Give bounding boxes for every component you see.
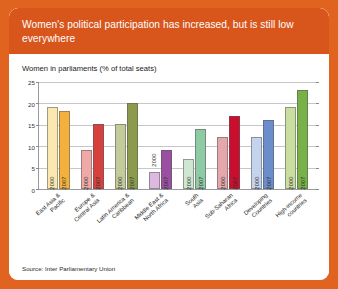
bar-year-label: 2007 [300, 176, 306, 189]
y-tick-label: 15 [28, 122, 35, 129]
bar: 2007 [195, 129, 206, 189]
bar-group: 20002007 [178, 82, 212, 189]
y-tickmark-right [316, 146, 319, 147]
bar: 2007 [161, 150, 172, 189]
chart-area: 0510152025 20002007200020072000200720002… [21, 78, 318, 280]
bar: 2007 [229, 116, 240, 189]
x-axis-label-text: DevelopingCountries [242, 192, 274, 222]
bar-year-label: 2000 [220, 176, 226, 189]
y-tick-label: 10 [28, 143, 35, 150]
x-axis-labels: East Asia &PacificEurope &Central AsiaLa… [38, 190, 318, 242]
page-title: Women's political participation has incr… [22, 18, 316, 45]
bar-group: 20002007 [212, 82, 246, 189]
info-card: Women's political participation has incr… [9, 8, 329, 280]
bar-year-label: 2007 [266, 176, 272, 189]
bar: 2007 [127, 103, 138, 189]
bar-group: 20002007 [143, 82, 177, 189]
bar-year-label: 2007 [198, 176, 204, 189]
bar: 2007 [59, 111, 70, 189]
bar-year-label: 2000 [83, 176, 89, 189]
bar: 2007 [263, 120, 274, 189]
bar-year-label: 2007 [95, 176, 101, 189]
y-tick-label: 20 [28, 100, 35, 107]
bar: 2000 [115, 124, 126, 189]
x-axis-label: East Asia &Pacific [40, 190, 75, 242]
bar-group: 20002007 [109, 82, 143, 189]
bar: 2000 [149, 172, 160, 189]
source-note: Source: Inter Parliamentary Union [22, 265, 115, 272]
bar-year-label: 2000 [117, 176, 123, 189]
bar-year-label: 2000 [151, 153, 157, 166]
bar-year-label: 2007 [61, 176, 67, 189]
y-tickmark-right [316, 103, 319, 104]
card-header: Women's political participation has incr… [9, 8, 329, 54]
plot-region: 2000200720002007200020072000200720002007… [38, 82, 316, 190]
bar-year-label: 2000 [49, 176, 55, 189]
y-axis: 0510152025 [21, 82, 38, 190]
bar-year-label: 2007 [232, 176, 238, 189]
chart-subtitle: Women in parliaments (% of total seats) [22, 63, 318, 74]
bar: 2007 [297, 90, 308, 189]
bar-year-label: 2007 [129, 176, 135, 189]
x-axis-label-text: East Asia &Pacific [35, 192, 67, 223]
bar: 2000 [251, 137, 262, 189]
card-body: Women in parliaments (% of total seats) … [9, 54, 329, 280]
bar: 2000 [81, 150, 92, 189]
bar-year-label: 2000 [288, 176, 294, 189]
bar-groups: 2000200720002007200020072000200720002007… [39, 82, 316, 189]
y-tickmark-right [316, 168, 319, 169]
bar-group: 20002007 [75, 82, 109, 189]
bar-year-label: 2000 [186, 176, 192, 189]
bar: 2000 [285, 107, 296, 189]
screenshot-root: Women's political participation has incr… [0, 0, 338, 289]
y-tickmark-right [316, 125, 319, 126]
y-tick-label: 5 [32, 165, 35, 172]
bar-group: 20002007 [246, 82, 280, 189]
x-axis-label: Middle East &North Africa [144, 190, 179, 242]
bar-group: 20002007 [41, 82, 75, 189]
bar: 2000 [217, 137, 228, 189]
bar: 2000 [47, 107, 58, 189]
y-tickmark-right [316, 82, 319, 83]
y-tick-label: 25 [28, 79, 35, 86]
x-axis-label-text: SouthAsia [184, 192, 205, 213]
x-axis-label: High-incomecountries [282, 190, 317, 242]
bar-year-label: 2007 [163, 176, 169, 189]
plot-wrapper: 0510152025 20002007200020072000200720002… [21, 82, 316, 190]
x-axis-label: Sub-SaharanAfrica [213, 190, 248, 242]
bar-group: 20002007 [280, 82, 314, 189]
y-tick-label: 0 [32, 187, 35, 194]
bar-year-label: 2000 [254, 176, 260, 189]
bar: 2000 [183, 159, 194, 189]
bar: 2007 [93, 124, 104, 189]
